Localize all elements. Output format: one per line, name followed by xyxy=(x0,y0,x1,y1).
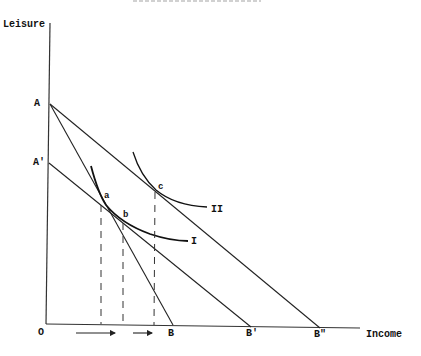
x-axis-label: Income xyxy=(366,330,402,340)
intercept-label-A-prime: A' xyxy=(33,158,45,168)
origin-label: O xyxy=(38,328,44,338)
indifference-diagram xyxy=(0,0,421,356)
budget-line-A-B xyxy=(50,104,173,325)
curve-label-II: II xyxy=(211,205,223,215)
intercept-label-B: B xyxy=(168,329,174,339)
x-axis xyxy=(46,324,360,328)
y-axis-label: Leisure xyxy=(3,20,45,30)
y-axis xyxy=(46,23,50,324)
indifference-curve-I xyxy=(91,166,188,241)
curve-label-I: I xyxy=(191,237,197,247)
indifference-curve-II xyxy=(133,152,207,207)
point-label-b: b xyxy=(123,211,128,220)
point-label-c: c xyxy=(158,183,163,192)
point-label-a: a xyxy=(104,192,109,201)
intercept-label-B-double-prime: B" xyxy=(314,330,326,340)
intercept-label-A: A xyxy=(34,99,40,109)
intercept-label-B-prime: B' xyxy=(246,329,258,339)
dashed-projection-c xyxy=(154,192,155,325)
budget-line-A-B-double-prime xyxy=(50,104,320,328)
